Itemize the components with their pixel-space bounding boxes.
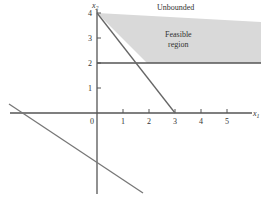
y-tick-label-4: 4 <box>88 9 92 18</box>
unbounded-label: Unbounded <box>157 3 194 12</box>
feasible-region-label-line1: Feasible <box>165 30 192 39</box>
y-tick-label-1: 1 <box>88 84 92 93</box>
x-tick-label-4: 4 <box>199 117 203 126</box>
x-tick-label-1: 1 <box>121 117 125 126</box>
y-tick-label-2: 2 <box>88 59 92 68</box>
x-tick-label-5: 5 <box>225 117 229 126</box>
x-tick-label-3: 3 <box>173 117 177 126</box>
feasible-region-label-line2: region <box>168 40 188 49</box>
y-tick-label-3: 3 <box>88 34 92 43</box>
y-axis-label: x2 <box>91 1 99 11</box>
x-tick-label-0: 0 <box>90 117 94 126</box>
feasible-region-chart: 0 1 2 3 4 5 1 2 3 4 x2 x1 Unbounded Feas… <box>0 0 261 201</box>
x-axis-label: x1 <box>252 109 260 119</box>
x-tick-label-2: 2 <box>147 117 151 126</box>
